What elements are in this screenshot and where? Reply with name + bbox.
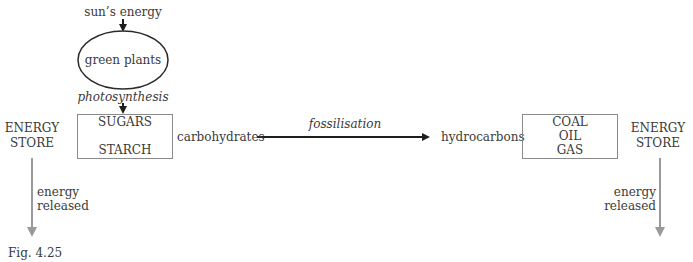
hydrocarbons-label: hydrocarbons	[441, 130, 525, 144]
carbohydrates-label: carbohydrates	[177, 130, 265, 144]
left-energy-store-line2: STORE	[2, 136, 62, 150]
oil-label: OIL	[522, 129, 618, 143]
green-plants-label: green plants	[78, 53, 168, 67]
starch-label: STARCH	[77, 143, 173, 157]
right-energy-store-line2: STORE	[628, 136, 688, 150]
gas-label: GAS	[522, 143, 618, 157]
left-energy-store-line1: ENERGY	[2, 121, 62, 135]
right-energy-released-line1: energy	[612, 185, 656, 199]
coal-label: COAL	[522, 115, 618, 129]
figure-label: Fig. 4.25	[8, 246, 62, 260]
fossilisation-label: fossilisation	[290, 117, 400, 131]
right-energy-store-line1: ENERGY	[628, 121, 688, 135]
left-energy-released-line1: energy	[37, 185, 79, 199]
photosynthesis-label: photosynthesis	[63, 90, 183, 104]
sugars-label: SUGARS	[77, 115, 173, 129]
right-energy-released-line2: released	[600, 199, 656, 213]
left-energy-released-line2: released	[37, 199, 89, 213]
sun-energy-label: sun’s energy	[73, 5, 173, 19]
